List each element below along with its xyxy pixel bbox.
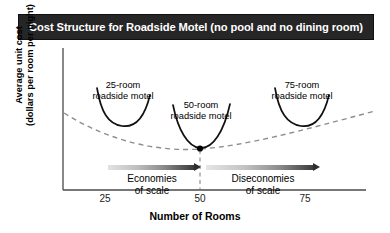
label-economies-line1: Economies <box>97 173 207 185</box>
x-tick-50: 50 <box>183 193 217 204</box>
minimum-efficient-scale-point <box>197 145 203 151</box>
annotation-50-room-line2: roadside motel <box>146 111 256 122</box>
x-tick-75: 75 <box>288 193 322 204</box>
annotation-75-room-line1: 75-room <box>247 80 357 91</box>
annotation-25-room: 25-room roadside motel <box>68 80 178 102</box>
diseconomies-arrow-head <box>313 163 320 171</box>
diseconomies-of-scale-arrow <box>206 164 320 171</box>
x-tick-25: 25 <box>88 193 122 204</box>
annotation-75-room-line2: roadside motel <box>247 91 357 102</box>
economies-arrow-head <box>194 163 201 171</box>
x-axis-label: Number of Rooms <box>0 210 390 222</box>
cost-structure-chart: Cost Structure for Roadside Motel (no po… <box>0 0 390 233</box>
economies-of-scale-arrow <box>108 164 201 171</box>
diseconomies-arrow-shaft <box>206 165 313 170</box>
annotation-50-room-line1: 50-room <box>146 100 256 111</box>
annotation-25-room-line1: 25-room <box>68 80 178 91</box>
annotation-50-room: 50-room roadside motel <box>146 100 256 122</box>
economies-arrow-shaft <box>108 165 194 170</box>
label-diseconomies-line1: Diseconomies <box>208 173 318 185</box>
annotation-75-room: 75-room roadside motel <box>247 80 357 102</box>
